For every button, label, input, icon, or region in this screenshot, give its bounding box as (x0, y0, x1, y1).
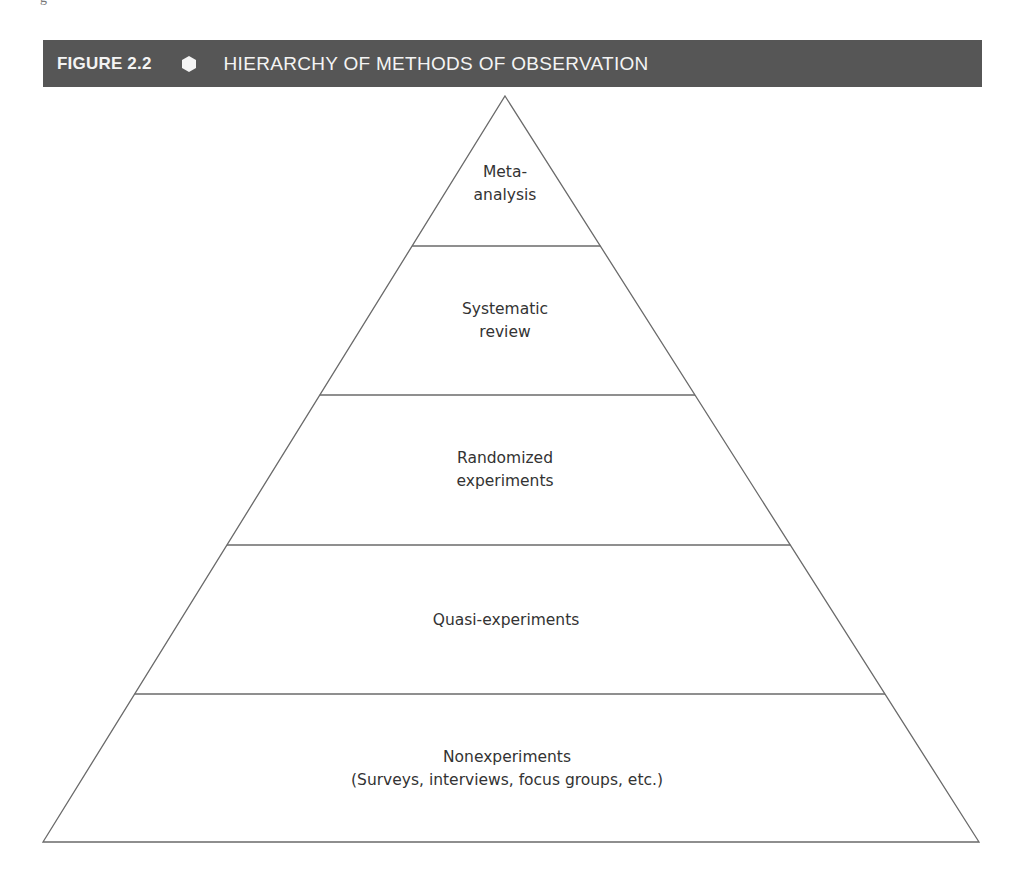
level-label-line: Systematic (462, 298, 548, 321)
level-label-line: experiments (456, 470, 553, 493)
level-label-line: analysis (474, 184, 537, 207)
level-label-nonexperiments: Nonexperiments(Surveys, interviews, focu… (351, 746, 663, 792)
level-label-line: Randomized (456, 447, 553, 470)
level-label-quasi-experiments: Quasi-experiments (433, 609, 580, 632)
level-label-line: Meta- (474, 161, 537, 184)
level-label-line: Nonexperiments (351, 746, 663, 769)
level-label-line: Quasi-experiments (433, 609, 580, 632)
level-label-randomized-experiments: Randomizedexperiments (456, 447, 553, 493)
level-label-line: (Surveys, interviews, focus groups, etc.… (351, 769, 663, 792)
level-label-line: review (462, 321, 548, 344)
level-label-systematic-review: Systematicreview (462, 298, 548, 344)
level-label-meta-analysis: Meta-analysis (474, 161, 537, 207)
